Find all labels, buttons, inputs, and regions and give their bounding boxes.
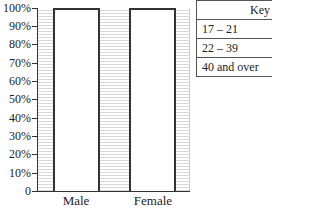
y-tick-mark <box>32 44 37 45</box>
y-tick-mark <box>32 99 37 100</box>
y-tick-mark <box>32 26 37 27</box>
legend-title: Key <box>197 1 273 20</box>
y-tick-mark <box>32 81 37 82</box>
x-label-male: Male <box>41 193 111 209</box>
x-label-female: Female <box>118 193 188 209</box>
y-tick-mark <box>32 191 37 192</box>
y-tick-mark <box>32 8 37 9</box>
legend-entry: 17 – 21 <box>197 20 273 39</box>
bar-male <box>53 8 100 191</box>
y-tick-mark <box>32 118 37 119</box>
y-tick-mark <box>32 63 37 64</box>
legend-entry: 22 – 39 <box>197 39 273 58</box>
bar-female <box>129 8 176 191</box>
legend-entry: 40 and over <box>197 58 273 77</box>
y-tick-mark <box>32 173 37 174</box>
x-axis <box>37 191 190 192</box>
y-axis <box>37 8 38 192</box>
legend-key: Key 17 – 21 22 – 39 40 and over <box>196 0 272 77</box>
y-tick-mark <box>32 154 37 155</box>
y-tick-mark <box>32 136 37 137</box>
